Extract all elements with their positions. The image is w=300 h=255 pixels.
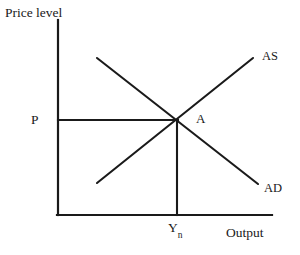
as-curve-label: AS — [262, 50, 278, 63]
price-level-label: P — [31, 113, 39, 127]
ad-curve-label: AD — [264, 182, 282, 195]
diagram-canvas: Price level P A AS AD Yn Output — [0, 0, 300, 255]
x-axis-title: Output — [226, 226, 264, 240]
natural-output-symbol: Y — [168, 220, 178, 235]
ad-as-diagram — [0, 0, 300, 255]
natural-output-label: Yn — [168, 221, 183, 238]
equilibrium-point-label: A — [196, 112, 205, 125]
y-axis-title: Price level — [5, 6, 62, 20]
axes-group — [57, 20, 272, 215]
natural-output-subscript: n — [178, 230, 183, 240]
